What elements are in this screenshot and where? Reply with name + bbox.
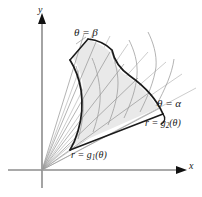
label-r-equals-g2: r = g2(θ) <box>145 118 181 130</box>
y-axis-label: y <box>38 5 42 15</box>
label-r-equals-g2-prefix: r = g <box>145 117 166 128</box>
x-axis-label: x <box>189 161 193 171</box>
label-r-equals-g1-suffix: (θ) <box>95 149 107 160</box>
label-r-equals-g1-prefix: r = g <box>71 149 92 160</box>
label-r-equals-g1: r = g1(θ) <box>71 150 107 162</box>
label-theta-equals-beta: θ = β <box>74 27 98 38</box>
label-r-equals-g2-suffix: (θ) <box>169 117 181 128</box>
x-axis-arrowhead <box>176 166 187 174</box>
label-theta-equals-alpha: θ = α <box>157 98 181 109</box>
polar-region-figure: θ = β θ = α r = g2(θ) r = g1(θ) y x <box>0 0 202 197</box>
